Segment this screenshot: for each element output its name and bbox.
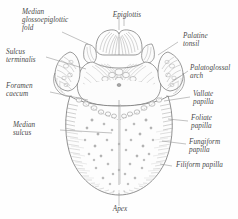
leader-median-glossoepiglottic-fold bbox=[62, 32, 88, 44]
label-sulcus-terminalis: Sulcus terminalis bbox=[6, 48, 54, 64]
tongue-anatomy-figure: Median glossoepiglottic fold Sulcus term… bbox=[0, 0, 238, 219]
label-apex: Apex bbox=[105, 205, 135, 213]
label-vallate-papilla: Vallate papilla bbox=[193, 90, 237, 106]
label-median-sulcus: Median sulcus bbox=[13, 121, 59, 137]
epiglottis-shape bbox=[91, 30, 147, 57]
tongue-outline-group bbox=[46, 16, 190, 206]
label-palatine-tonsil: Palatine tonsil bbox=[183, 32, 235, 48]
label-filiform-papilla: Filiform papilla bbox=[176, 161, 238, 169]
palatine-tonsil-left bbox=[55, 52, 80, 91]
label-fungiform-papilla: Fungiform papilla bbox=[189, 138, 237, 154]
label-median-glossoepiglottic-fold: Median glossoepiglottic fold bbox=[22, 8, 88, 33]
foramen-caecum-marker bbox=[117, 84, 121, 87]
label-foramen-caecum: Foramen caecum bbox=[6, 82, 54, 98]
label-epiglottis: Epiglottis bbox=[104, 11, 150, 19]
label-foliate-papilla: Foliate papilla bbox=[191, 114, 235, 130]
palatine-tonsil-right bbox=[158, 52, 183, 91]
label-palatoglossal-arch: Palatoglossal arch bbox=[190, 64, 238, 80]
